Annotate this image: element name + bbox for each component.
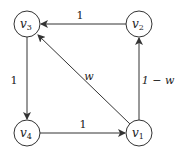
node-v1: v1: [126, 120, 152, 146]
node-v3: v3: [14, 11, 40, 37]
edge-label-v1-v3: w: [84, 70, 94, 83]
node-v2: v2: [126, 11, 152, 37]
node-v4: v4: [14, 120, 40, 146]
edge-label-v3-v4: 1: [11, 74, 18, 87]
edge-v3-v4: 1: [11, 37, 28, 119]
edge-label-v4-v1: 1: [80, 118, 87, 131]
edge-v4-v1: 1: [40, 118, 125, 133]
edge-v1-v2: 1 − w: [139, 38, 175, 120]
edge-v1-v3: w: [38, 35, 130, 124]
edge-v2-v3: 1: [41, 9, 126, 24]
edge-label-v1-v2: 1 − w: [142, 74, 175, 87]
graph-diagram: 1 1 1 1 − w w v3 v2 v4 v1: [0, 0, 184, 159]
edge-label-v2-v3: 1: [77, 9, 84, 22]
